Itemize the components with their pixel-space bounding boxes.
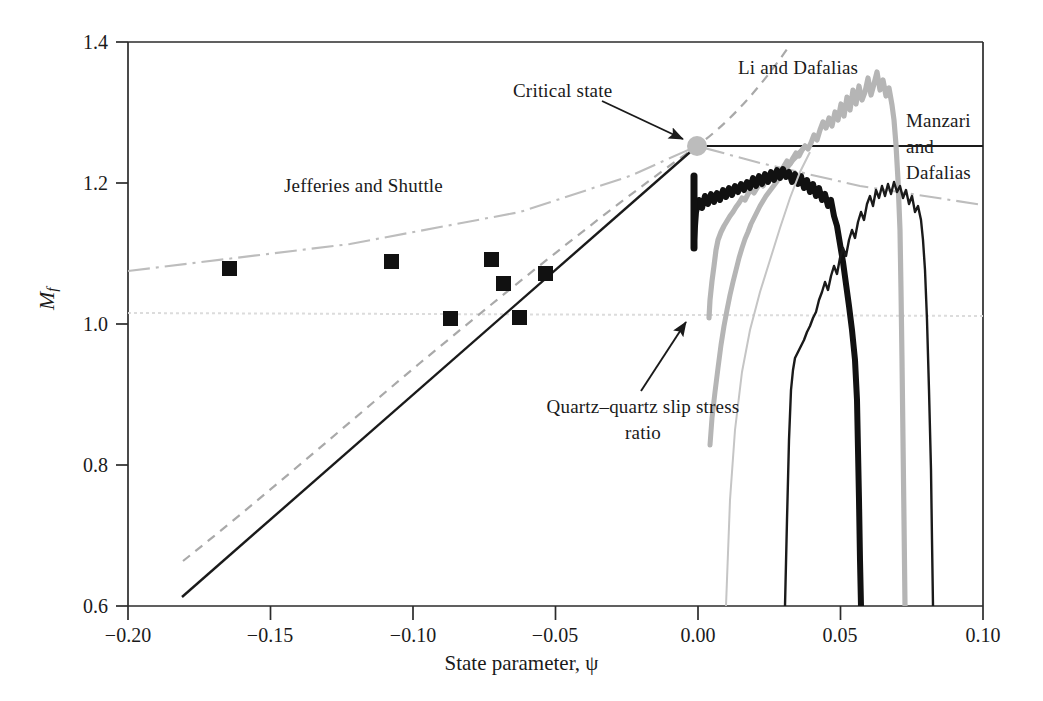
x-axis-ticks [128,606,983,620]
x-tick-label-m0-15: −0.15 [210,624,330,647]
x-tick-label-0-10: 0.10 [923,624,1043,647]
x-tick-label-m0-20: −0.20 [68,624,188,647]
series-manzari-and-dafalias [182,146,697,597]
annotation-quartz-quartz-line1: Quartz–quartz slip stress [493,396,793,418]
critical-state-arrow [602,101,683,139]
annotation-critical-state: Critical state [513,80,612,102]
y-tick-label-0-6: 0.6 [52,595,108,618]
annotation-manzari-and-dafalias-line3: Dafalias [906,162,971,184]
x-axis-title: State parameter, ψ [0,651,1043,676]
quartz-quartz-arrow [641,322,686,391]
chart-figure: 1.4 1.2 1.0 0.8 0.6 −0.20 −0.15 −0.10 −0… [0,0,1043,701]
y-tick-label-1-0: 1.0 [52,313,108,336]
data-point [222,261,237,276]
series-quartz-quartz [128,313,983,316]
critical-state-point [687,136,707,156]
series-dem-gray-noisy [709,72,905,606]
y-axis-title: Mf [34,288,61,311]
series-li-and-dafalias [183,45,790,561]
x-tick-label-0-00: 0.00 [638,624,758,647]
y-tick-label-0-8: 0.8 [52,454,108,477]
y-axis-ticks [116,42,128,606]
plot-canvas [0,0,1043,701]
data-point [484,252,499,267]
data-point [443,311,458,326]
data-point [384,254,399,269]
annotation-manzari-and-dafalias-line2: and [906,136,934,158]
x-tick-label-m0-05: −0.05 [495,624,615,647]
annotation-jefferies-and-shuttle: Jefferies and Shuttle [284,175,443,197]
y-tick-label-1-2: 1.2 [52,172,108,195]
x-tick-label-m0-10: −0.10 [353,624,473,647]
y-axis-title-base: M [34,292,59,310]
x-tick-label-0-05: 0.05 [780,624,900,647]
data-point [496,276,511,291]
data-point [538,266,553,281]
y-tick-label-1-4: 1.4 [52,31,108,54]
annotation-manzari-and-dafalias-line1: Manzari [906,110,971,132]
y-axis-title-subscript: f [44,288,60,292]
plot-frame [128,42,983,606]
annotation-quartz-quartz-line2: ratio [493,422,793,444]
annotation-li-and-dafalias: Li and Dafalias [738,57,858,79]
data-point [512,310,527,325]
series-dem-thin-gray-rise [726,152,810,606]
